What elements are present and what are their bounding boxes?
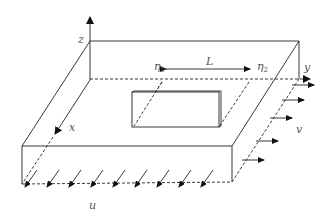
- x-axis-label: x: [69, 122, 75, 133]
- bottom-front-edge: [22, 182, 232, 184]
- eta1-label: η1: [154, 61, 165, 74]
- length-label: L: [206, 56, 213, 67]
- z-axis-label: z: [78, 34, 84, 45]
- block: [132, 82, 221, 127]
- eta2-label: η2: [257, 61, 268, 74]
- y-axis-label: y: [304, 62, 310, 73]
- u-arrows: [25, 170, 213, 187]
- diagram-canvas: z x y η1 η2 L u v: [0, 0, 329, 216]
- slab-diagram: [0, 0, 329, 216]
- u-label: u: [89, 200, 96, 211]
- v-arrows: [242, 85, 314, 160]
- v-label: v: [296, 124, 302, 135]
